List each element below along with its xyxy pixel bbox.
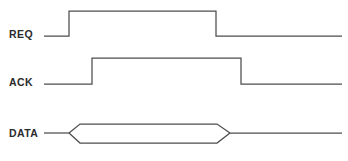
waveform-req	[44, 11, 342, 36]
timing-diagram: REQ ACK DATA	[0, 0, 348, 161]
signal-label-req: REQ	[9, 28, 33, 40]
timing-diagram-canvas: REQ ACK DATA	[0, 0, 348, 161]
waveform-ack	[44, 58, 342, 84]
signal-label-data: DATA	[9, 127, 38, 139]
waveform-data-upper-edge	[69, 124, 230, 133]
signal-row-req: REQ	[9, 11, 342, 40]
signal-row-data: DATA	[9, 124, 342, 143]
signal-row-ack: ACK	[9, 58, 342, 88]
signal-label-ack: ACK	[9, 76, 33, 88]
waveform-data-lower-edge	[69, 133, 230, 143]
